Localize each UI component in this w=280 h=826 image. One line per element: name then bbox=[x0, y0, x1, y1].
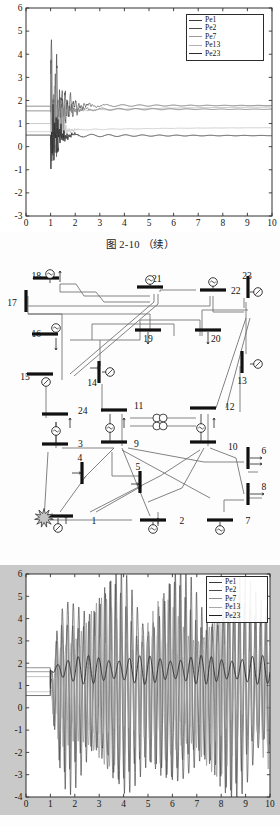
x-tick-label: 4 bbox=[122, 218, 127, 228]
x-tick-label: 8 bbox=[220, 218, 225, 228]
bus-bar-6 bbox=[246, 447, 249, 469]
bus-bar-9 bbox=[101, 440, 127, 443]
bus-11 bbox=[101, 408, 127, 411]
bus-15 bbox=[27, 372, 53, 375]
bus-label-23: 23 bbox=[242, 270, 252, 281]
x-tick-label: 0 bbox=[24, 218, 29, 228]
top-chart-plot-area: 012345678910-3-2-10123456 Pe1Pe2Pe7Pe13P… bbox=[0, 0, 280, 232]
bus-label-5: 5 bbox=[136, 461, 141, 472]
legend-item-pe1: Pe1 bbox=[209, 578, 264, 586]
bus-label-3: 3 bbox=[78, 438, 83, 449]
bus-bar-17 bbox=[24, 290, 27, 312]
y-tick-label: -2 bbox=[15, 748, 23, 758]
bottom-chart-legend: Pe1Pe2Pe7Pe13Pe23 bbox=[206, 576, 268, 623]
bus-8 bbox=[246, 483, 249, 505]
bus-bar-19 bbox=[135, 328, 161, 331]
y-tick-label: 6 bbox=[18, 569, 23, 579]
generator-symbol bbox=[197, 424, 206, 433]
y-tick-label: -3 bbox=[15, 770, 23, 780]
bus-17 bbox=[24, 290, 27, 312]
bus-bar-7 bbox=[207, 518, 233, 521]
generator-symbol bbox=[46, 270, 55, 279]
transformer-symbol bbox=[153, 414, 167, 422]
x-tick-label: 8 bbox=[219, 799, 224, 809]
bus-label-20: 20 bbox=[211, 333, 221, 344]
bus-19 bbox=[135, 328, 161, 331]
y-tick-label: 5 bbox=[18, 26, 23, 36]
bus-bar-20 bbox=[195, 328, 221, 331]
x-tick-label: 5 bbox=[147, 218, 152, 228]
bus-7 bbox=[207, 518, 233, 521]
generator-symbol bbox=[54, 524, 63, 533]
x-tick-label: 9 bbox=[243, 799, 248, 809]
figure-top-chart: 012345678910-3-2-10123456 Pe1Pe2Pe7Pe13P… bbox=[0, 0, 280, 262]
bus-bar-13 bbox=[240, 351, 243, 373]
x-tick-label: 0 bbox=[24, 799, 29, 809]
bottom-chart-plot-area: 012345678910-4-3-2-10123456 Pe1Pe2Pe7Pe1… bbox=[0, 565, 280, 815]
bus-label-8: 8 bbox=[262, 481, 267, 492]
figure-top-caption: 图 2-10 （续） bbox=[0, 236, 280, 251]
x-tick-label: 2 bbox=[73, 218, 78, 228]
bus-label-10: 10 bbox=[228, 441, 238, 452]
bus-bar-8 bbox=[246, 483, 249, 505]
generator-symbol bbox=[106, 424, 115, 433]
legend-swatch-pe7 bbox=[209, 598, 222, 599]
legend-swatch-pe7 bbox=[189, 36, 202, 37]
y-tick-label: 1 bbox=[18, 681, 23, 691]
y-tick-label: 4 bbox=[18, 50, 23, 60]
y-tick-label: 6 bbox=[18, 3, 23, 13]
legend-item-pe23: Pe23 bbox=[189, 50, 260, 58]
bus-5 bbox=[138, 471, 141, 493]
legend-swatch-pe1 bbox=[209, 582, 222, 583]
generator-symbol bbox=[106, 368, 115, 377]
legend-swatch-pe1 bbox=[189, 20, 202, 21]
legend-swatch-pe2 bbox=[189, 28, 202, 29]
bus-13 bbox=[240, 351, 243, 373]
bus-label-2: 2 bbox=[180, 515, 185, 526]
y-tick-label: 0 bbox=[18, 142, 23, 152]
generator-symbol bbox=[254, 288, 263, 297]
bus-bar-11 bbox=[101, 408, 127, 411]
bus-label-6: 6 bbox=[262, 445, 267, 456]
bus-label-18: 18 bbox=[31, 270, 41, 281]
bus-24 bbox=[42, 412, 68, 415]
legend-label-pe23: Pe23 bbox=[205, 50, 220, 58]
generator-symbol bbox=[149, 525, 158, 534]
bus-bar-2 bbox=[140, 518, 166, 521]
x-tick-label: 6 bbox=[171, 218, 176, 228]
bus-9 bbox=[101, 440, 127, 443]
bus-label-14: 14 bbox=[87, 377, 97, 388]
x-tick-label: 10 bbox=[267, 218, 277, 228]
bus-label-22: 22 bbox=[231, 285, 241, 296]
y-tick-label: -4 bbox=[15, 792, 23, 802]
x-tick-label: 7 bbox=[196, 218, 201, 228]
y-tick-label: 4 bbox=[18, 614, 23, 624]
legend-swatch-pe23 bbox=[209, 615, 222, 616]
generator-symbol bbox=[254, 360, 263, 369]
bus-10 bbox=[190, 440, 216, 443]
transformer-symbol bbox=[153, 422, 167, 430]
bus-3 bbox=[42, 442, 68, 445]
bus-label-4: 4 bbox=[78, 452, 83, 463]
bus-label-11: 11 bbox=[134, 400, 143, 411]
legend-item-pe23: Pe23 bbox=[209, 612, 264, 620]
book-page: 012345678910-3-2-10123456 Pe1Pe2Pe7Pe13P… bbox=[0, 0, 280, 826]
x-tick-label: 5 bbox=[146, 799, 151, 809]
bus-label-17: 17 bbox=[7, 297, 17, 308]
y-tick-label: -3 bbox=[15, 211, 23, 221]
x-tick-label: 9 bbox=[245, 218, 250, 228]
x-tick-label: 1 bbox=[48, 799, 53, 809]
y-tick-label: -2 bbox=[15, 188, 23, 198]
bus-bar-15 bbox=[27, 372, 53, 375]
legend-item-pe13: Pe13 bbox=[189, 41, 260, 49]
y-tick-label: 3 bbox=[18, 73, 23, 83]
bus-label-16: 16 bbox=[31, 328, 41, 339]
bus-bar-5 bbox=[138, 471, 141, 493]
bus-label-12: 12 bbox=[225, 401, 235, 412]
x-tick-label: 1 bbox=[48, 218, 53, 228]
bus-14 bbox=[97, 361, 100, 383]
y-tick-label: 1 bbox=[18, 119, 23, 129]
y-tick-label: 5 bbox=[18, 592, 23, 602]
bus-20 bbox=[195, 328, 221, 331]
bus-label-24: 24 bbox=[78, 405, 88, 416]
